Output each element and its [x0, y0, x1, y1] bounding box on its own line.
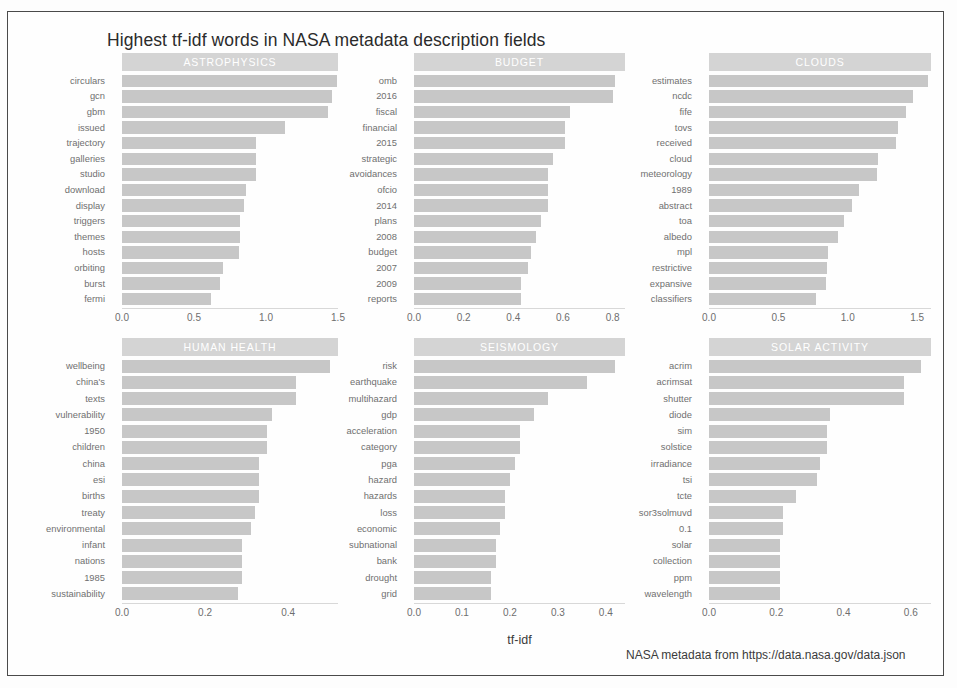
- bar: [709, 408, 830, 421]
- bar-row: [709, 90, 931, 102]
- facet-strip-label: CLOUDS: [709, 53, 931, 71]
- y-tick-label: environmental: [0, 524, 105, 533]
- bar-row: [709, 137, 931, 149]
- bar-row: [709, 473, 931, 486]
- y-tick-label: avoidances: [197, 169, 397, 178]
- bar-row: [709, 168, 931, 180]
- y-tick-label: solar: [492, 540, 692, 549]
- y-tick-label: omb: [197, 76, 397, 85]
- y-tick-label: toa: [492, 216, 692, 225]
- facet-clouds: CLOUDSestimatesncdcfifetovsreceivedcloud…: [697, 53, 931, 325]
- y-tick-label: gcn: [0, 91, 105, 100]
- bar: [709, 215, 844, 227]
- y-tick-label: 2016: [197, 91, 397, 100]
- bar: [709, 506, 783, 519]
- bar: [414, 587, 491, 600]
- bar-row: [709, 277, 931, 289]
- bar: [709, 376, 904, 389]
- y-tick-label: studio: [0, 169, 105, 178]
- y-tick-label: cloud: [492, 154, 692, 163]
- bar: [709, 262, 827, 274]
- bar-row: [709, 293, 931, 305]
- plot-area: Highest tf-idf words in NASA metadata de…: [9, 13, 942, 674]
- y-tick-label: tcte: [492, 491, 692, 500]
- y-tick-label: diode: [492, 410, 692, 419]
- facet-strip-label: HUMAN HEALTH: [122, 338, 338, 356]
- facet-strip-label: ASTROPHYSICS: [122, 53, 338, 71]
- y-tick-label: 1985: [0, 573, 105, 582]
- y-tick-label: solstice: [492, 442, 692, 451]
- bar: [709, 231, 838, 243]
- bar-row: [709, 587, 931, 600]
- facet-strip-label: BUDGET: [414, 53, 625, 71]
- y-tick-label: 2007: [197, 263, 397, 272]
- y-tick-label: hazard: [197, 475, 397, 484]
- bar-row: [709, 246, 931, 258]
- bar-row: [709, 425, 931, 438]
- y-tick-label: fiscal: [197, 107, 397, 116]
- x-tick-label: 0.0: [115, 607, 129, 618]
- bar: [709, 137, 896, 149]
- y-tick-label: bank: [197, 556, 397, 565]
- x-tick-label: 0.2: [503, 607, 517, 618]
- bar: [709, 473, 817, 486]
- y-tick-label: texts: [0, 394, 105, 403]
- y-tick-label: sustainability: [0, 589, 105, 598]
- x-axis-line: [122, 603, 338, 604]
- x-tick-label: 0.4: [281, 607, 295, 618]
- y-tick-label: albedo: [492, 232, 692, 241]
- y-tick-label: gbm: [0, 107, 105, 116]
- bar: [709, 75, 928, 87]
- y-tick-label: collection: [492, 556, 692, 565]
- y-tick-label: galleries: [0, 154, 105, 163]
- y-tick-label: classifiers: [492, 294, 692, 303]
- y-tick-label: nations: [0, 556, 105, 565]
- bar: [709, 571, 780, 584]
- y-tick-label: hazards: [197, 491, 397, 500]
- figure-caption: NASA metadata from https://data.nasa.gov…: [626, 648, 906, 662]
- y-tick-label: esi: [0, 475, 105, 484]
- bar-row: [709, 408, 931, 421]
- y-tick-label: display: [0, 201, 105, 210]
- x-axis-line: [709, 603, 931, 604]
- x-tick-label: 0.2: [769, 607, 783, 618]
- x-tick-label: 1.0: [259, 312, 273, 323]
- bar: [709, 121, 898, 133]
- bar: [709, 441, 827, 454]
- x-tick-label: 0.0: [702, 312, 716, 323]
- y-tick-label: estimates: [492, 76, 692, 85]
- page-title: Highest tf-idf words in NASA metadata de…: [107, 30, 545, 51]
- facet-solar-activity: SOLAR ACTIVITYacrimacrimsatshutterdiodes…: [697, 338, 931, 610]
- y-tick-label: mpl: [492, 247, 692, 256]
- y-tick-label: meteorology: [492, 169, 692, 178]
- y-tick-label: 2014: [197, 201, 397, 210]
- bar: [709, 184, 859, 196]
- y-tick-label: drought: [197, 573, 397, 582]
- bar-row: [709, 215, 931, 227]
- bar-row: [709, 392, 931, 405]
- y-tick-label: tsi: [492, 475, 692, 484]
- x-axis-line: [414, 603, 625, 604]
- x-tick-label: 0.0: [407, 312, 421, 323]
- x-tick-label: 0.6: [904, 607, 918, 618]
- bar: [709, 106, 906, 118]
- bar: [709, 90, 913, 102]
- bar-row: [709, 106, 931, 118]
- x-tick-label: 0.2: [457, 312, 471, 323]
- x-axis-label: tf-idf: [507, 633, 531, 647]
- y-tick-label: infant: [0, 540, 105, 549]
- y-tick-label: 1950: [0, 426, 105, 435]
- y-tick-label: pga: [197, 459, 397, 468]
- x-axis-line: [709, 308, 931, 309]
- x-tick-label: 0.5: [771, 312, 785, 323]
- y-tick-label: loss: [197, 508, 397, 517]
- y-tick-label: financial: [197, 123, 397, 132]
- bar: [414, 539, 496, 552]
- y-tick-label: irradiance: [492, 459, 692, 468]
- facet-strip-label: SEISMOLOGY: [414, 338, 625, 356]
- y-tick-label: expansive: [492, 279, 692, 288]
- bar: [709, 246, 828, 258]
- bar-row: [709, 539, 931, 552]
- y-tick-label: ncdc: [492, 91, 692, 100]
- bar: [709, 293, 816, 305]
